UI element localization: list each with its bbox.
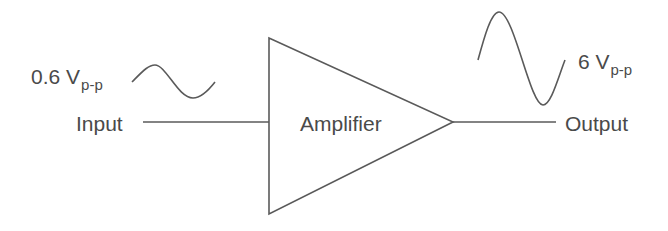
input-amplitude-value: 0.6 V [31, 65, 80, 88]
input-sine-wave-icon [132, 65, 215, 98]
output-amplitude-label: 6 Vp-p [578, 51, 632, 72]
output-amplitude-value: 6 V [578, 50, 610, 73]
output-amplitude-subscript: p-p [611, 61, 633, 78]
amplifier-label: Amplifier [300, 113, 382, 134]
output-label: Output [565, 113, 628, 134]
input-label: Input [76, 113, 123, 134]
input-amplitude-label: 0.6 Vp-p [31, 66, 103, 87]
output-sine-wave-icon [478, 12, 565, 105]
amplifier-diagram: 0.6 Vp-p Input Amplifier 6 Vp-p Output [0, 0, 668, 231]
input-amplitude-subscript: p-p [81, 76, 103, 93]
